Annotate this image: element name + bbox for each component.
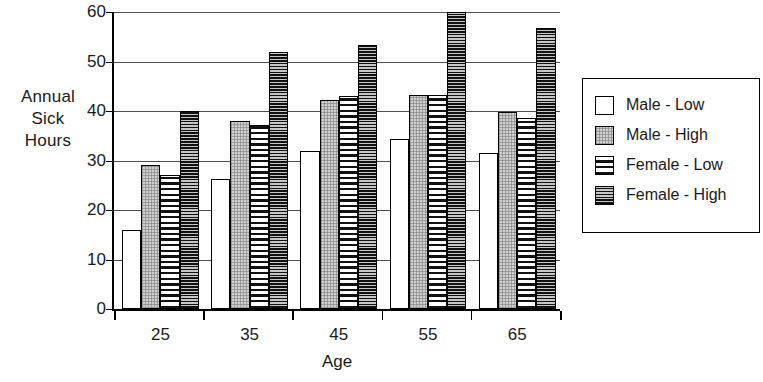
bar-35-female-high bbox=[269, 52, 288, 309]
bar-55-male-high bbox=[409, 95, 428, 309]
bar-55-male-low bbox=[390, 139, 409, 309]
y-tick-label-30: 30 bbox=[87, 152, 106, 169]
bar-chart-figure: Annual Sick Hours 6050403020100 25354555… bbox=[0, 0, 763, 382]
bar-65-male-high bbox=[498, 112, 517, 309]
bar-groups bbox=[114, 12, 560, 309]
legend-label: Male - Low bbox=[626, 96, 704, 114]
x-tick-4 bbox=[471, 311, 473, 320]
x-tick-2 bbox=[292, 311, 294, 320]
bar-group-35 bbox=[211, 12, 288, 309]
bar-25-male-high bbox=[141, 165, 160, 309]
y-axis-tick-labels: 6050403020100 bbox=[62, 12, 106, 311]
bar-35-female-low bbox=[250, 125, 269, 309]
swatch-white-icon bbox=[595, 96, 614, 115]
bar-group-45 bbox=[300, 12, 377, 309]
x-tick-label-55: 55 bbox=[419, 325, 438, 345]
bar-65-male-low bbox=[479, 153, 498, 309]
y-tick-label-0: 0 bbox=[97, 300, 106, 317]
bar-55-female-low bbox=[428, 95, 447, 309]
x-axis-title: Age bbox=[112, 352, 562, 372]
y-tick-label-60: 60 bbox=[87, 3, 106, 20]
bar-35-male-low bbox=[211, 179, 230, 309]
x-axis-tick-labels: 2535455565 bbox=[112, 325, 562, 349]
y-tick-0 bbox=[106, 309, 114, 310]
x-axis-ticks bbox=[112, 311, 562, 321]
legend-label: Female - Low bbox=[626, 156, 723, 174]
bar-35-male-high bbox=[230, 121, 249, 309]
legend-item-male-high[interactable]: Male - High bbox=[595, 120, 759, 150]
y-tick-label-20: 20 bbox=[87, 201, 106, 218]
plot-area bbox=[112, 12, 560, 311]
legend-label: Male - High bbox=[626, 126, 708, 144]
x-tick-label-35: 35 bbox=[240, 325, 259, 345]
bar-65-female-low bbox=[517, 118, 536, 309]
y-tick-50 bbox=[106, 62, 114, 63]
bar-45-female-high bbox=[358, 45, 377, 309]
bar-group-65 bbox=[479, 12, 556, 309]
y-tick-60 bbox=[106, 12, 114, 13]
chart-legend: Male - LowMale - HighFemale - LowFemale … bbox=[582, 78, 760, 233]
x-tick-5 bbox=[560, 311, 562, 320]
bar-25-male-low bbox=[122, 230, 141, 309]
x-tick-0 bbox=[114, 311, 116, 320]
bar-45-male-low bbox=[300, 151, 319, 309]
x-tick-label-25: 25 bbox=[151, 325, 170, 345]
bar-45-female-low bbox=[339, 96, 358, 309]
y-tick-10 bbox=[106, 260, 114, 261]
bar-65-female-high bbox=[536, 28, 555, 309]
y-tick-label-40: 40 bbox=[87, 102, 106, 119]
bar-25-female-low bbox=[160, 175, 179, 309]
bar-25-female-high bbox=[180, 111, 199, 309]
y-tick-30 bbox=[106, 161, 114, 162]
y-tick-20 bbox=[106, 210, 114, 211]
swatch-striped-icon bbox=[595, 156, 614, 175]
y-tick-label-50: 50 bbox=[87, 53, 106, 70]
swatch-light-gray-icon bbox=[595, 126, 614, 145]
x-tick-label-45: 45 bbox=[329, 325, 348, 345]
x-tick-label-65: 65 bbox=[508, 325, 527, 345]
bar-group-25 bbox=[122, 12, 199, 309]
x-tick-3 bbox=[382, 311, 384, 320]
swatch-dark-icon bbox=[595, 186, 614, 205]
legend-item-female-low[interactable]: Female - Low bbox=[595, 150, 759, 180]
legend-item-female-high[interactable]: Female - High bbox=[595, 180, 759, 210]
y-tick-label-10: 10 bbox=[87, 251, 106, 268]
legend-item-male-low[interactable]: Male - Low bbox=[595, 90, 759, 120]
x-tick-1 bbox=[203, 311, 205, 320]
bar-group-55 bbox=[390, 12, 467, 309]
y-tick-40 bbox=[106, 111, 114, 112]
legend-label: Female - High bbox=[626, 186, 726, 204]
bar-55-female-high bbox=[447, 12, 466, 309]
bar-45-male-high bbox=[320, 100, 339, 309]
